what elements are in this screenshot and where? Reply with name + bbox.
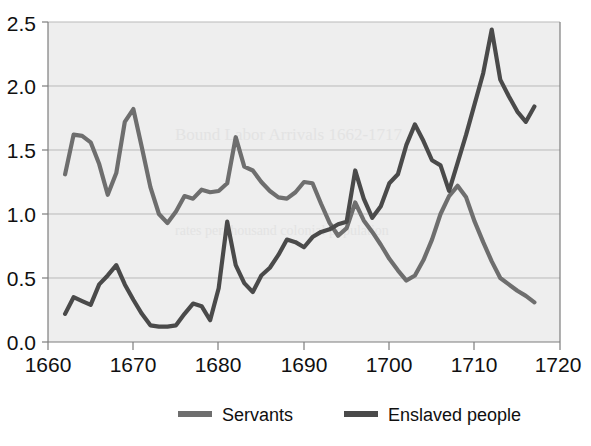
y-tick-label-3: 1.5 <box>7 139 36 162</box>
y-tick-label-1: 0.5 <box>7 267 36 290</box>
y-tick-label-5: 2.5 <box>7 12 36 35</box>
y-tick-label-0: 0.0 <box>7 331 36 354</box>
x-tick-label-1720: 1720 <box>535 353 582 376</box>
chart-container: Bound Labor Arrivals 1662-1717 rates per… <box>0 0 591 446</box>
x-tick-label-1660: 1660 <box>25 353 72 376</box>
y-tickmarks <box>42 22 48 342</box>
x-axis-tick-labels: 1660 1670 1680 1690 1700 1710 1720 <box>25 353 582 376</box>
svg-text:Bound Labor Arrivals 1662-1717: Bound Labor Arrivals 1662-1717 <box>175 125 403 144</box>
chart-legend: Servants Enslaved people <box>178 405 521 425</box>
svg-text:rates per thousand colonial po: rates per thousand colonial population <box>175 223 389 238</box>
x-tickmarks <box>48 342 560 350</box>
x-tick-label-1710: 1710 <box>451 353 498 376</box>
y-tick-label-4: 2.0 <box>7 75 36 98</box>
legend-label-servants: Servants <box>222 405 293 425</box>
x-tick-label-1670: 1670 <box>110 353 157 376</box>
x-tick-label-1700: 1700 <box>366 353 413 376</box>
line-chart-svg: Bound Labor Arrivals 1662-1717 rates per… <box>0 0 591 446</box>
y-tick-label-2: 1.0 <box>7 203 36 226</box>
legend-label-enslaved-people: Enslaved people <box>388 405 521 425</box>
x-tick-label-1680: 1680 <box>195 353 242 376</box>
x-tick-label-1690: 1690 <box>281 353 328 376</box>
y-axis-tick-labels: 0.0 0.5 1.0 1.5 2.0 2.5 <box>7 12 36 354</box>
